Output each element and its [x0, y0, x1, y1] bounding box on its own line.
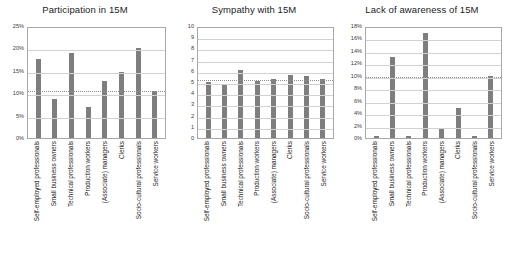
gridline [366, 115, 501, 116]
bar [406, 136, 411, 138]
gridline [28, 118, 165, 119]
y-axis-labels: 0%2%4%6%8%10%12%14%16%18% [338, 27, 364, 139]
x-axis-label-slot: Clerks [119, 141, 124, 267]
x-axis-label-slot: Socio-cultural professionals [473, 141, 478, 267]
y-axis-tick-label: 3 [191, 103, 194, 109]
y-axis-tick-label: 15% [13, 69, 24, 75]
x-axis-label-slot: Socio-cultural professionals [305, 141, 310, 267]
y-axis-tick-label: 1 [191, 125, 194, 131]
y-axis-tick-label: 6 [191, 69, 194, 75]
x-axis-category-label: Self-employed professionals [372, 141, 378, 221]
gridline [28, 50, 165, 51]
x-axis-category-label: Production workers [85, 141, 91, 196]
y-axis-tick-label: 9 [191, 35, 194, 41]
x-axis-label-slot: Self-employed professionals [35, 141, 40, 267]
x-axis-category-label: (Associate) managers [271, 141, 277, 203]
x-axis-category-label: Technical professionals [237, 141, 243, 207]
y-axis-tick-label: 8% [354, 86, 362, 92]
x-axis-label-slot: Clerks [288, 141, 293, 267]
bar [390, 57, 395, 138]
x-axis-label-slot: Service workers [321, 141, 326, 267]
x-axis-label-slot: Technical professionals [238, 141, 243, 267]
y-axis-tick-label: 0% [16, 136, 24, 142]
x-axis-label-slot: Small business owners [52, 141, 57, 267]
gridline [198, 73, 333, 74]
y-axis-tick-label: 4 [191, 91, 194, 97]
bar [102, 81, 107, 138]
y-axis-tick-label: 0% [354, 136, 362, 142]
bar [472, 136, 477, 138]
plot-area-wrapper: 012345678910 [170, 27, 338, 139]
gridline [366, 40, 501, 41]
gridline [198, 84, 333, 85]
y-axis-tick-label: 7 [191, 58, 194, 64]
x-axis-label-slot: Self-employed professionals [205, 141, 210, 267]
y-axis-tick-label: 16% [351, 37, 362, 43]
gridline [198, 118, 333, 119]
gridline [366, 103, 501, 104]
y-axis-tick-label: 10% [13, 91, 24, 97]
x-axis-labels: Self-employed professionalsSmall busines… [365, 141, 502, 267]
x-axis-category-label: Clerks [287, 141, 293, 159]
x-axis-category-label: Service workers [488, 141, 494, 186]
x-axis-label-slot: Small business owners [389, 141, 394, 267]
bar [488, 76, 493, 138]
x-axis-label-slot: Self-employed professionals [373, 141, 378, 267]
average-reference-line [366, 77, 501, 78]
chart-panel-sympathy: Sympathy with 15M 012345678910 Self-empl… [170, 0, 338, 272]
gridline [198, 62, 333, 63]
x-axis-label-slot: Small business owners [221, 141, 226, 267]
average-reference-line [28, 91, 165, 92]
x-axis-label-slot: Socio-cultural professionals [136, 141, 141, 267]
gridline [28, 95, 165, 96]
x-axis-labels: Self-employed professionalsSmall busines… [197, 141, 334, 267]
x-axis-category-label: Socio-cultural professionals [472, 141, 478, 219]
x-axis-category-label: Technical professionals [68, 141, 74, 207]
chart-title: Sympathy with 15M [170, 4, 338, 15]
gridline [198, 106, 333, 107]
x-axis-category-label: Technical professionals [405, 141, 411, 207]
gridline [366, 53, 501, 54]
plot-area-wrapper: 0%5%10%15%20%25% [0, 27, 170, 139]
x-axis-label-slot: Clerks [456, 141, 461, 267]
y-axis-tick-label: 0 [191, 136, 194, 142]
chart-title: Participation in 15M [0, 4, 170, 15]
y-axis-tick-label: 20% [13, 47, 24, 53]
x-axis-label-slot: Production workers [423, 141, 428, 267]
plot-area [365, 27, 502, 139]
bar [136, 48, 141, 138]
plot-area [197, 27, 334, 139]
bar-series [198, 28, 333, 138]
x-axis-label-slot: Technical professionals [69, 141, 74, 267]
y-axis-tick-label: 6% [354, 99, 362, 105]
gridline [198, 129, 333, 130]
x-axis-category-label: Small business owners [51, 141, 57, 206]
x-axis-label-slot: Service workers [489, 141, 494, 267]
average-reference-line [198, 80, 333, 81]
x-axis-category-label: (Associate) managers [439, 141, 445, 203]
bar-series [366, 28, 501, 138]
gridline [198, 50, 333, 51]
bar [439, 128, 444, 138]
y-axis-tick-label: 5% [16, 114, 24, 120]
y-axis-tick-label: 4% [354, 111, 362, 117]
y-axis-tick-label: 2 [191, 114, 194, 120]
x-axis-label-slot: (Associate) managers [439, 141, 444, 267]
chart-title: Lack of awareness of 15M [338, 4, 506, 15]
x-axis-label-slot: (Associate) managers [271, 141, 276, 267]
y-axis-tick-label: 25% [13, 24, 24, 30]
bar [423, 33, 428, 138]
bar [222, 84, 227, 138]
y-axis-tick-label: 8 [191, 47, 194, 53]
x-axis-category-label: Self-employed professionals [204, 141, 210, 221]
x-axis-category-label: Clerks [455, 141, 461, 159]
y-axis-tick-label: 10 [188, 24, 194, 30]
gridline [198, 39, 333, 40]
x-axis-label-slot: Service workers [153, 141, 158, 267]
bar [456, 108, 461, 138]
bar-series [28, 28, 165, 138]
x-axis-label-slot: (Associate) managers [102, 141, 107, 267]
gridline [198, 95, 333, 96]
chart-panel-participation: Participation in 15M 0%5%10%15%20%25% Se… [0, 0, 170, 272]
x-axis-category-label: Service workers [320, 141, 326, 186]
